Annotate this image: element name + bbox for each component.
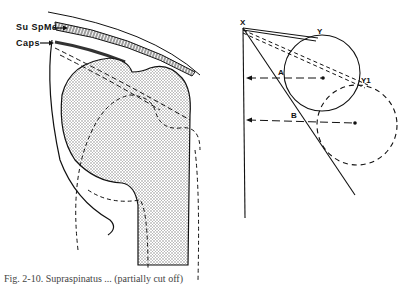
point-b-label: B bbox=[291, 111, 297, 120]
diagram-canvas bbox=[0, 0, 407, 285]
figure-caption: Fig. 2-10. Supraspinatus ... (partially … bbox=[4, 273, 183, 284]
arrow-b bbox=[248, 120, 354, 123]
point-a-label: A bbox=[278, 68, 284, 77]
circle-dashed bbox=[317, 85, 397, 165]
vertical-line bbox=[243, 28, 245, 218]
point-y1-label: Y1 bbox=[361, 76, 371, 85]
shoulder-figure bbox=[40, 12, 200, 280]
point-y-label: Y bbox=[317, 27, 322, 36]
point-x-label: X bbox=[240, 18, 245, 27]
geometry-figure bbox=[243, 28, 397, 218]
tangent-line bbox=[243, 28, 355, 195]
label-capsule: Caps bbox=[16, 38, 40, 48]
humerus bbox=[61, 58, 190, 265]
label-supraspinatus: Su SpMs bbox=[16, 22, 58, 32]
circle-solid bbox=[284, 35, 360, 111]
dashed-shaft-right bbox=[195, 150, 199, 280]
